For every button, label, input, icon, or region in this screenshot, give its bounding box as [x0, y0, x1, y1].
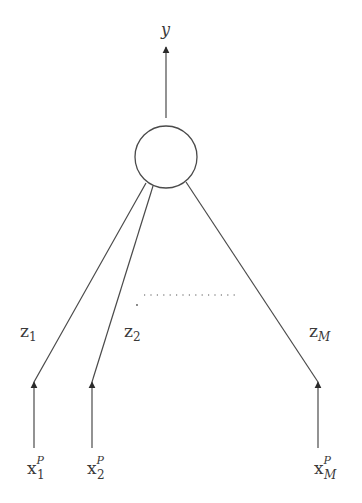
output-node	[135, 126, 197, 188]
ellipsis-dot	[136, 304, 138, 306]
hidden-edge-2	[92, 186, 153, 382]
output-label: y	[160, 20, 171, 39]
network-diagram: y z1 z2 zM xP1 xP2 xPM	[0, 0, 362, 503]
hidden-label-2: z2	[124, 321, 141, 344]
hidden-label-1: z1	[20, 321, 37, 344]
input-label-M: xPM	[314, 454, 337, 482]
input-label-1: xP1	[27, 454, 45, 482]
hidden-edge-1	[34, 183, 146, 382]
input-label-2: xP2	[87, 454, 105, 482]
hidden-label-M: zM	[309, 321, 331, 344]
hidden-edge-M	[186, 182, 318, 382]
